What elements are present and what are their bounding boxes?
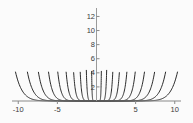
y-tick-label: 4 [91,68,95,77]
y-tick-label: 2 [91,83,95,92]
x-tick-label: 10 [171,105,179,114]
x-tick-label: 5 [134,105,138,114]
chart-canvas: -10-551024681012 [0,0,193,123]
y-tick-label: 12 [87,12,95,21]
y-tick-label: 8 [91,40,95,49]
x-tick-label: -5 [54,105,61,114]
chart-figure: -10-551024681012 [0,0,193,123]
y-tick-label: 6 [91,54,95,63]
y-tick-label: 10 [87,26,95,35]
x-tick-label: -10 [13,105,24,114]
tick-label-group: -10-551024681012 [13,12,179,114]
